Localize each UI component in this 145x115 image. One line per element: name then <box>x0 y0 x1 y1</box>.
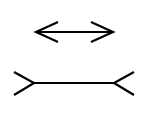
right-fin-icon <box>114 72 134 95</box>
muller-lyer-diagram <box>0 0 145 115</box>
left-fin-icon <box>14 72 34 95</box>
fin-out-figure <box>14 72 134 95</box>
double-arrow-figure <box>36 22 114 42</box>
